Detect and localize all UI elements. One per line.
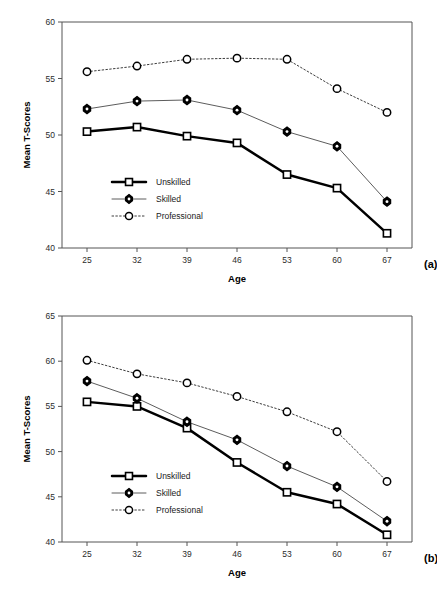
data-point-marker xyxy=(83,357,90,364)
x-tick-label: 25 xyxy=(82,549,92,559)
data-point-marker xyxy=(183,133,190,140)
y-tick-label: 40 xyxy=(46,537,56,547)
data-point-marker xyxy=(383,478,390,485)
x-tick-label: 53 xyxy=(282,255,292,265)
x-tick-label: 46 xyxy=(232,549,242,559)
data-point-marker xyxy=(383,197,390,206)
data-point-marker xyxy=(183,56,190,63)
data-point-marker xyxy=(233,54,240,61)
series-unskilled xyxy=(83,398,390,538)
x-tick-label: 39 xyxy=(182,549,192,559)
y-tick-label: 55 xyxy=(46,74,56,84)
data-point-marker xyxy=(183,379,190,386)
legend-marker xyxy=(126,179,133,186)
panel-label: (a) xyxy=(424,258,437,270)
data-point-marker xyxy=(333,85,340,92)
x-axis: 25323946536067 xyxy=(82,248,392,265)
y-tick-label: 50 xyxy=(46,447,56,457)
data-point-marker xyxy=(133,403,140,410)
data-point-marker xyxy=(283,489,290,496)
x-tick-label: 32 xyxy=(132,549,142,559)
data-point-marker xyxy=(283,56,290,63)
x-axis-title: Age xyxy=(228,273,246,284)
plot-frame xyxy=(62,316,412,542)
panel-label: (b) xyxy=(424,552,437,564)
legend: UnskilledSkilledProfessional xyxy=(112,177,203,221)
legend-label: Professional xyxy=(156,505,203,515)
legend-item-skilled[interactable]: Skilled xyxy=(112,488,181,498)
y-axis-title: Mean T-Scores xyxy=(21,395,32,462)
y-tick-label: 45 xyxy=(46,492,56,502)
y-tick-label: 50 xyxy=(46,130,56,140)
y-tick-label: 65 xyxy=(46,311,56,321)
data-point-marker xyxy=(83,376,90,385)
y-axis: 4045505560 xyxy=(46,17,62,253)
legend-label: Professional xyxy=(156,211,203,221)
legend-label: Skilled xyxy=(156,194,181,204)
chart-svg: 40455055606525323946536067AgeMean T-Scor… xyxy=(0,294,437,588)
data-point-marker xyxy=(233,139,240,146)
legend-marker xyxy=(125,212,132,219)
series-skilled xyxy=(83,95,390,206)
data-point-marker xyxy=(383,531,390,538)
x-tick-label: 25 xyxy=(82,255,92,265)
legend-marker xyxy=(126,473,133,480)
legend-label: Unskilled xyxy=(156,471,191,481)
y-tick-label: 60 xyxy=(46,356,56,366)
data-point-marker xyxy=(333,428,340,435)
y-tick-label: 45 xyxy=(46,187,56,197)
data-point-marker xyxy=(233,459,240,466)
data-point-marker xyxy=(233,106,240,115)
chart-panel-b: 40455055606525323946536067AgeMean T-Scor… xyxy=(0,294,437,588)
y-tick-label: 40 xyxy=(46,243,56,253)
x-tick-label: 32 xyxy=(132,255,142,265)
data-point-marker xyxy=(233,393,240,400)
data-point-marker xyxy=(133,62,140,69)
data-point-marker xyxy=(183,417,190,426)
data-point-marker xyxy=(283,171,290,178)
x-axis-title: Age xyxy=(228,567,246,578)
data-point-marker xyxy=(283,127,290,136)
series-line xyxy=(87,402,387,535)
legend-marker xyxy=(125,506,132,513)
data-point-marker xyxy=(133,394,140,403)
data-point-marker xyxy=(83,128,90,135)
data-point-marker xyxy=(333,500,340,507)
legend: UnskilledSkilledProfessional xyxy=(112,471,203,515)
legend-item-professional[interactable]: Professional xyxy=(112,505,203,515)
x-tick-label: 46 xyxy=(232,255,242,265)
x-tick-label: 60 xyxy=(332,549,342,559)
data-point-marker xyxy=(283,408,290,415)
legend-item-professional[interactable]: Professional xyxy=(112,211,203,221)
data-point-marker xyxy=(383,517,390,526)
x-tick-label: 60 xyxy=(332,255,342,265)
x-tick-label: 39 xyxy=(182,255,192,265)
data-point-marker xyxy=(383,230,390,237)
data-point-marker xyxy=(133,97,140,106)
data-point-marker xyxy=(133,123,140,130)
data-point-marker xyxy=(333,185,340,192)
chart-svg: 404550556025323946536067AgeMean T-Scores… xyxy=(0,0,437,294)
x-axis: 25323946536067 xyxy=(82,542,392,559)
legend-marker xyxy=(126,195,133,204)
y-axis-title: Mean T-Scores xyxy=(21,101,32,168)
chart-panel-a: 404550556025323946536067AgeMean T-Scores… xyxy=(0,0,437,294)
x-tick-label: 53 xyxy=(282,549,292,559)
data-point-marker xyxy=(233,435,240,444)
y-tick-label: 60 xyxy=(46,17,56,27)
legend-item-skilled[interactable]: Skilled xyxy=(112,194,181,204)
data-point-marker xyxy=(383,109,390,116)
legend-item-unskilled[interactable]: Unskilled xyxy=(112,471,191,481)
data-point-marker xyxy=(83,68,90,75)
data-point-marker xyxy=(83,398,90,405)
data-point-marker xyxy=(133,370,140,377)
data-point-marker xyxy=(283,461,290,470)
legend-label: Skilled xyxy=(156,488,181,498)
legend-label: Unskilled xyxy=(156,177,191,187)
series-line xyxy=(87,381,387,521)
figure-two-panel-line-charts: 404550556025323946536067AgeMean T-Scores… xyxy=(0,0,437,589)
legend-item-unskilled[interactable]: Unskilled xyxy=(112,177,191,187)
x-tick-label: 67 xyxy=(382,255,392,265)
data-point-marker xyxy=(183,95,190,104)
x-tick-label: 67 xyxy=(382,549,392,559)
